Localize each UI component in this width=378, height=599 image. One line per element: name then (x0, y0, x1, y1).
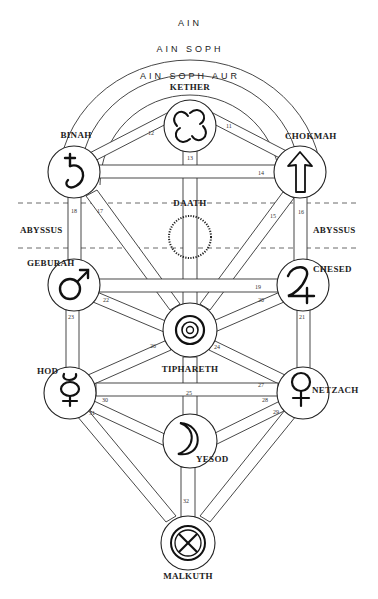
path-number-13: 13 (187, 155, 193, 161)
path-number-26: 26 (150, 343, 156, 349)
sephirah-geburah: GEBURAH (27, 258, 100, 311)
geburah-label: GEBURAH (27, 258, 75, 268)
path-24 (209, 340, 285, 385)
path-26 (88, 340, 171, 385)
path-19 (99, 279, 279, 292)
path-number-21: 21 (299, 314, 305, 320)
path-20 (211, 292, 284, 332)
sephirah-chesed: CHESED (277, 259, 352, 311)
chokmah-label: CHOKMAH (285, 131, 337, 141)
tree-of-life-diagram: AIN AIN SOPH AIN SOPH AUR ABYSSUS ABYSSU… (0, 0, 378, 599)
abyssus-right-label: ABYSSUS (313, 225, 356, 235)
path-32 (181, 467, 195, 517)
path-number-14: 14 (258, 170, 264, 176)
sephirah-kether: KETHER (164, 82, 216, 152)
path-number-22: 22 (103, 297, 109, 303)
chesed-label: CHESED (313, 264, 352, 274)
sephirah-binah: BINAH (48, 130, 100, 198)
hod-label: HOD (37, 366, 59, 376)
path-number-11: 11 (226, 123, 232, 129)
ain-soph-label: AIN SOPH (156, 44, 223, 54)
ain-label: AIN (178, 18, 202, 28)
ain-soph-aur-label: AIN SOPH AUR (140, 71, 240, 81)
path-number-17: 17 (97, 208, 103, 214)
path-number-20: 20 (258, 297, 264, 303)
yesod-label: YESOD (196, 454, 229, 464)
sephirah-chokmah: CHOKMAH (274, 131, 337, 198)
path-14 (98, 165, 278, 178)
path-number-19: 19 (255, 284, 261, 290)
sephirah-netzach: NETZACH (277, 367, 359, 419)
path-number-25: 25 (186, 390, 192, 396)
binah-label: BINAH (60, 130, 91, 140)
path-number-24: 24 (214, 344, 220, 350)
path-number-18: 18 (71, 208, 77, 214)
kether-label: KETHER (170, 82, 211, 92)
path-number-16: 16 (298, 209, 304, 215)
path-number-28: 28 (262, 397, 268, 403)
sephirah-malkuth: MALKUTH (161, 516, 215, 581)
sephirah-tiphareth: TIPHARETH (162, 303, 219, 374)
path-16 (294, 196, 307, 262)
path-number-30: 30 (102, 397, 108, 403)
sephirah-hod: HOD (37, 366, 96, 419)
malkuth-label: MALKUTH (163, 571, 213, 581)
path-number-12: 12 (148, 130, 154, 136)
daath-label: DAATH (173, 198, 206, 208)
path-number-27: 27 (258, 382, 264, 388)
path-number-31: 31 (89, 410, 95, 416)
path-number-32: 32 (183, 498, 189, 504)
path-number-23: 23 (68, 314, 74, 320)
tiphareth-label: TIPHARETH (162, 364, 219, 374)
path-18 (68, 196, 81, 262)
path-number-15: 15 (270, 213, 276, 219)
netzach-label: NETZACH (312, 385, 359, 395)
abyssus-left-label: ABYSSUS (20, 225, 63, 235)
path-number-29: 29 (273, 409, 279, 415)
